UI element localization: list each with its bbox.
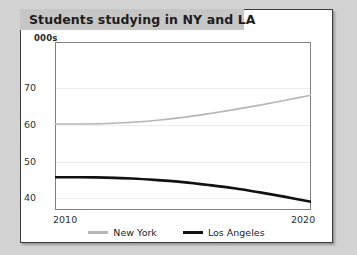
y-tick-label-40: 40: [0, 192, 36, 203]
legend-swatch-new-york: [88, 231, 108, 234]
y-tick-label-70: 70: [0, 82, 36, 93]
line-los-angeles: [55, 177, 311, 202]
chart-title-banner: Students studying in NY and LA: [20, 9, 244, 30]
y-tick-label-50: 50: [0, 156, 36, 167]
series-lines: [55, 42, 311, 210]
legend-item-los-angeles: Los Angeles: [183, 227, 265, 238]
page-title: Students studying in NY and LA: [29, 12, 256, 27]
legend-label-los-angeles: Los Angeles: [208, 227, 265, 238]
line-new-york: [55, 95, 311, 124]
x-tick-label-2010: 2010: [53, 214, 77, 225]
y-tick-label-60: 60: [0, 119, 36, 130]
x-tick-label-2020: 2020: [291, 214, 315, 225]
legend-swatch-los-angeles: [183, 231, 203, 235]
legend-item-new-york: New York: [88, 227, 157, 238]
chart-container: 000s 70 60 50 40 2010 2020 New York Los …: [20, 9, 333, 243]
chart-legend: New York Los Angeles: [20, 227, 333, 238]
legend-label-new-york: New York: [113, 227, 157, 238]
chart-page: 000s 70 60 50 40 2010 2020 New York Los …: [0, 0, 357, 255]
